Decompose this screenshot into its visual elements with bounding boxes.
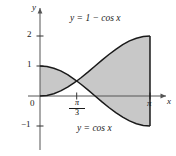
y-tick-label-2: 2: [27, 30, 32, 39]
origin-label: 0: [30, 99, 35, 108]
y-axis-label: y: [32, 3, 36, 12]
y-axis-arrowhead: [38, 8, 43, 14]
x-tick-label-pi-over-3: π 3: [69, 99, 85, 117]
x-axis-arrowhead: [161, 94, 167, 99]
area-between-curves-figure: y = 1 − cos x y = cos x y x 2 1 −1 0 π 3…: [0, 0, 176, 156]
lower-curve-label: y = cos x: [77, 124, 112, 134]
x-tick-label-pi: π: [147, 99, 152, 108]
pi-over-3-denominator: 3: [69, 109, 85, 117]
upper-curve-label: y = 1 − cos x: [70, 14, 121, 24]
x-axis-label: x: [167, 97, 171, 106]
pi-over-3-numerator: π: [69, 99, 85, 107]
y-tick-label-neg1: −1: [21, 120, 31, 129]
y-tick-label-1: 1: [27, 60, 32, 69]
